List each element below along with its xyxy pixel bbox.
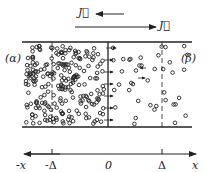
- upper-flux-label: J⃗: [78, 7, 89, 18]
- lower-flux-label: J⃗: [159, 20, 170, 31]
- diffusion-diagram: J⃗ J⃗ (α) (β) -x -Δ 0 Δ x: [0, 0, 206, 172]
- axis-label-x: x: [192, 160, 198, 171]
- region-alpha-label: (α): [5, 53, 21, 64]
- axis-label-neg-delta: -Δ: [45, 160, 57, 171]
- axis-label-neg-x: -x: [16, 160, 26, 171]
- diagram-canvas: [0, 0, 206, 172]
- region-beta-label: (β): [181, 53, 196, 64]
- particles: [24, 44, 189, 125]
- axis-label-origin: 0: [105, 160, 112, 171]
- axis-label-pos-delta: Δ: [158, 160, 166, 171]
